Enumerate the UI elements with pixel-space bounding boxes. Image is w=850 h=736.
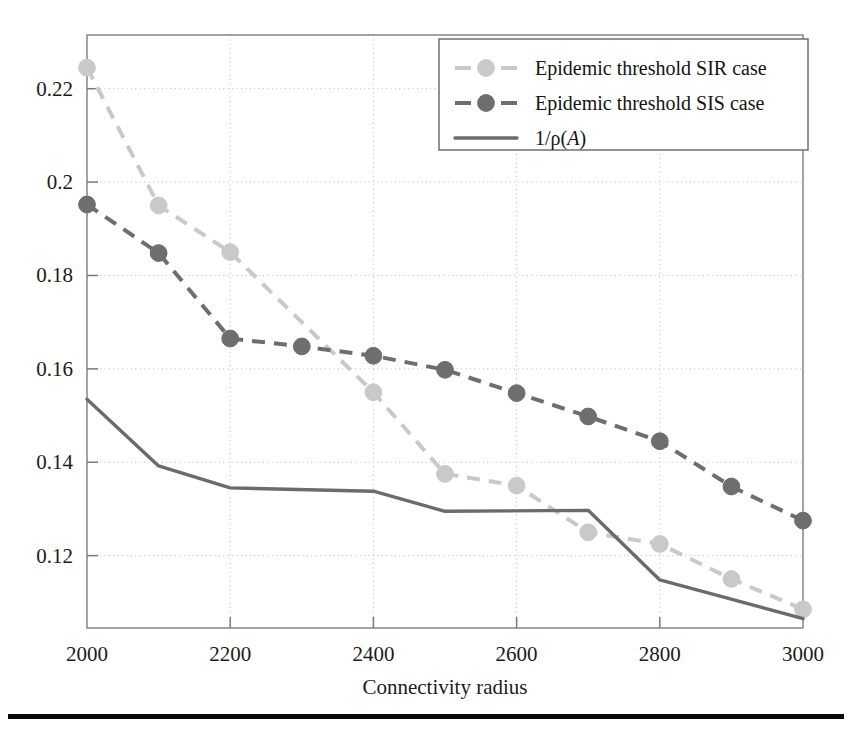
data-point [150, 197, 167, 214]
data-point [795, 512, 812, 529]
legend-label: Epidemic threshold SIS case [535, 92, 765, 115]
y-tick-label: 0.12 [36, 544, 73, 568]
y-tick-label: 0.22 [36, 77, 73, 101]
legend-marker [478, 95, 495, 112]
data-point [508, 477, 525, 494]
data-point [150, 245, 167, 262]
data-point [651, 433, 668, 450]
figure-container: 0.120.140.160.180.20.22 2000220024002600… [0, 0, 850, 736]
y-tick-label: 0.14 [36, 450, 73, 474]
data-point [508, 385, 525, 402]
x-tick-label: 2600 [496, 642, 538, 666]
x-tick-label: 3000 [782, 642, 824, 666]
data-point [437, 361, 454, 378]
data-point [580, 408, 597, 425]
data-point [222, 330, 239, 347]
legend-marker [478, 60, 495, 77]
x-tick-label: 2400 [352, 642, 394, 666]
epidemic-threshold-chart: 0.120.140.160.180.20.22 2000220024002600… [0, 0, 850, 736]
data-point [293, 338, 310, 355]
data-point [222, 244, 239, 261]
data-point [365, 384, 382, 401]
x-tick-label: 2200 [209, 642, 251, 666]
y-tick-label: 0.2 [47, 170, 73, 194]
y-tick-label: 0.18 [36, 263, 73, 287]
data-point [795, 601, 812, 618]
legend-label: Epidemic threshold SIR case [535, 57, 767, 80]
data-point [79, 59, 96, 76]
data-point [580, 524, 597, 541]
y-tick-label: 0.16 [36, 357, 73, 381]
data-point [651, 536, 668, 553]
x-axis-title: Connectivity radius [362, 675, 527, 699]
legend-label: 1/ρ(A) [535, 127, 586, 150]
x-tick-label: 2000 [66, 642, 108, 666]
data-point [79, 196, 96, 213]
data-point [437, 466, 454, 483]
data-point [723, 478, 740, 495]
x-tick-label: 2800 [639, 642, 681, 666]
bottom-rule [8, 714, 844, 719]
data-point [723, 571, 740, 588]
chart-legend: Epidemic threshold SIR caseEpidemic thre… [439, 39, 808, 150]
data-point [365, 347, 382, 364]
